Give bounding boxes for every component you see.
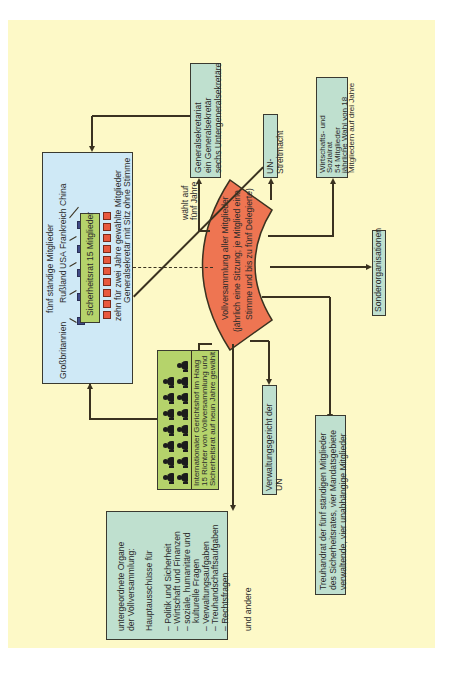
connector-ga-trusteeship (262, 297, 330, 299)
un-force-label: UN-Streitmacht (265, 118, 285, 174)
subsidiary-title-2: der Vollversammlung: (127, 520, 137, 631)
judge-icon (177, 425, 188, 435)
elected-member-square (103, 289, 111, 297)
connector-ga-court (198, 344, 212, 346)
judge-icon (163, 457, 174, 467)
elected-member-square (103, 212, 111, 220)
country-label-china: China (58, 184, 68, 206)
admin-tribunal-box: Verwaltungsgericht der UN (262, 385, 277, 495)
court-box: Internationaler Gerichtshof im Haag 15 R… (157, 350, 219, 490)
judge-icon (177, 457, 188, 467)
judge-icon (177, 409, 188, 419)
elected-member-square (103, 300, 111, 308)
un-force-box: UN-Streitmacht (263, 114, 278, 178)
connector-ga-ecosoc (332, 181, 334, 237)
leader-line (69, 236, 76, 241)
judge-icon (177, 393, 188, 403)
country-label-russia: Rußland (58, 271, 68, 303)
connector-ga-subsidiary (232, 344, 234, 506)
arrow-icon (89, 146, 95, 152)
connector-ga-trusteeship (329, 297, 331, 415)
court-line3: Sicherheitsrat auf neun Jahre gewählt (209, 352, 217, 486)
admin-tribunal-label: Verwaltungsgericht der UN (264, 389, 284, 491)
general-assembly-line3: Stimme und bis zu fünf Delegierte) (244, 188, 254, 320)
ecosoc-box: Wirtschafts- und Sozialrat 54 Mitglieder… (316, 77, 348, 178)
elected-member-square (103, 267, 111, 275)
arrow-icon (268, 178, 274, 184)
elected-member-square (103, 278, 111, 286)
ecosoc-line4: Mitgliedern auf drei Jahre (348, 82, 355, 173)
committees-label: Hauptausschüsse für (145, 520, 155, 631)
specialized-agencies-box: Sonderorganisationen (372, 230, 386, 316)
security-council-box: fünf ständige Mitglieder Großbritannien … (42, 152, 133, 384)
permanent-members-label: fünf ständige Mitglieder (45, 224, 55, 313)
elected-member-square (103, 234, 111, 242)
secretariat-title: Generalsekretariat (193, 68, 203, 173)
judge-icon (177, 441, 188, 451)
ecosoc-title: Wirtschafts- und Sozialrat (319, 82, 334, 173)
elected-member-square (103, 245, 111, 253)
trusteeship-line3: verwaltende, vier unabhängige Mitglieder (338, 420, 348, 590)
arrow-icon (196, 178, 202, 184)
arrow-icon (330, 178, 336, 184)
dashed-connector-sc-ga (133, 267, 213, 268)
specialized-agencies-label: Sonderorganisationen (373, 234, 383, 312)
leader-line (69, 290, 76, 295)
sg-seat-label: Generalsekretär mit Sitz ohne Stimme (122, 158, 132, 303)
connector-ga-tribunal (250, 341, 269, 343)
elected-member-square (103, 311, 111, 319)
connector-court-sc (89, 384, 91, 420)
trusteeship-line2: des Sicherheitsrates, vier Mandatsgebiet… (328, 420, 338, 590)
un-organization-diagram: fünf ständige Mitglieder Großbritannien … (0, 0, 451, 680)
arrow-icon (230, 505, 236, 511)
leader-line (69, 262, 76, 267)
secretariat-line2: ein Generalsekretär (203, 68, 213, 173)
security-council-inner: Sicherheitsrat 15 Mitglieder (80, 213, 100, 323)
committees-list: – Politik und Sicherheit – Wirtschaft un… (164, 520, 231, 631)
judge-icon (163, 393, 174, 403)
elected-member-square (103, 256, 111, 264)
judge-icon (177, 377, 188, 387)
connector-ga-agencies (270, 267, 370, 269)
arrow-icon (87, 383, 93, 389)
country-label-usa: USA (58, 251, 68, 269)
leader-line (69, 318, 76, 323)
connector-secretariat-sc (92, 116, 190, 118)
subsidiary-organs-box: untergeordnete Organe der Vollversammlun… (106, 511, 228, 640)
leader-line (69, 207, 79, 218)
general-assembly-title: Vollversammlung aller Mitglieder (220, 196, 230, 320)
security-council-label: Sicherheitsrat 15 Mitglieder (85, 212, 95, 316)
general-assembly-line2: (jährlich eine Sitzung; je Mitglied eine (232, 190, 242, 332)
secretariat-box: Generalsekretariat ein Generalsekretär s… (190, 63, 221, 178)
judges-area (161, 355, 191, 485)
judge-icon (163, 473, 174, 483)
elected-member-square (103, 223, 111, 231)
subsidiary-footer: und andere (244, 520, 254, 631)
connector-secretariat-sc (91, 116, 93, 147)
secretariat-line3: sechs Untergeneralsekretäre (213, 68, 223, 173)
connector-ga-ecosoc (268, 236, 333, 238)
judge-icon (163, 425, 174, 435)
judge-icon (177, 361, 188, 371)
country-label-france: Frankreich (58, 208, 68, 249)
committee-item: – Rechtsfragen (221, 520, 231, 631)
trusteeship-title: Treuhandrat der fünf ständigen Mitgliede… (318, 420, 328, 590)
connector-court-sc (90, 419, 157, 421)
connector-ga-secretariat (198, 182, 200, 232)
country-label-gb: Großbritannien (58, 322, 68, 379)
trusteeship-box: Treuhandrat der fünf ständigen Mitgliede… (315, 415, 346, 595)
connector-ga-tribunal (268, 341, 270, 380)
judge-icon (163, 377, 174, 387)
judge-icon (177, 473, 188, 483)
judge-icon (163, 409, 174, 419)
judge-icon (163, 441, 174, 451)
